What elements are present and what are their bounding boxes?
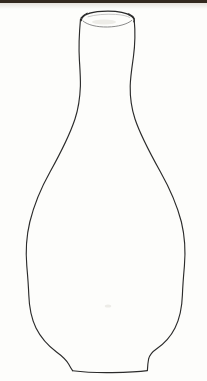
rim-smudge	[92, 20, 116, 25]
vase-rim-left-tick	[81, 13, 87, 18]
vase-line-drawing	[0, 0, 207, 381]
vase-figure	[26, 11, 185, 372]
vase-left-contour	[26, 19, 80, 371]
vase-rim-highlight	[88, 14, 130, 17]
vase-right-contour	[130, 20, 185, 371]
drawing-canvas	[0, 0, 207, 381]
vase-rim-right-tick	[129, 14, 135, 19]
body-smudge	[105, 304, 111, 307]
vase-base-line	[73, 371, 148, 373]
